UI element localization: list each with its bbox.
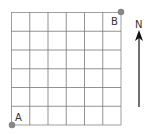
north-arrow-icon xyxy=(135,30,143,107)
grid-diagram: A B N xyxy=(0,0,152,134)
compass-label: N xyxy=(135,19,142,30)
point-b-label: B xyxy=(111,16,118,27)
grid xyxy=(12,13,122,126)
point-a-label: A xyxy=(15,112,22,123)
point-b-marker xyxy=(118,9,125,16)
